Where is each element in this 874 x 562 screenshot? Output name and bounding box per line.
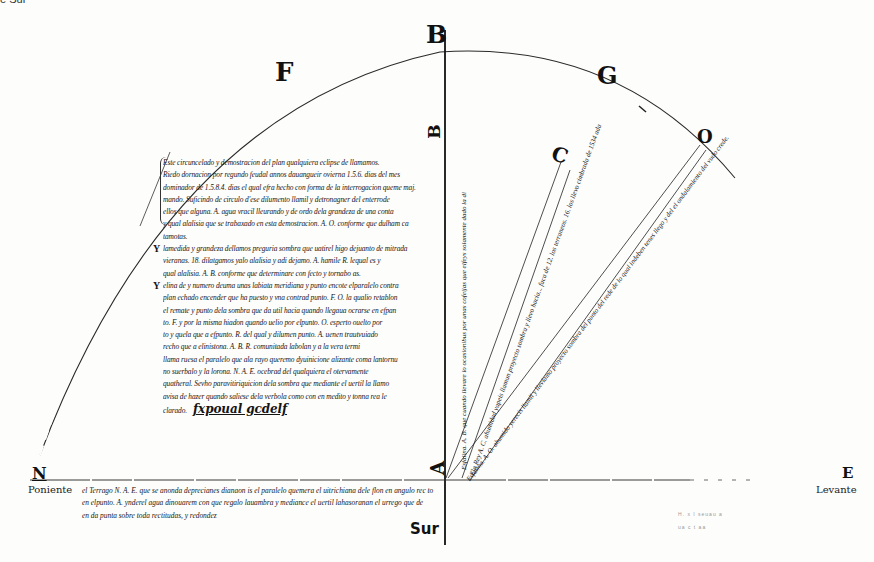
label-a: A <box>429 461 447 475</box>
bottom-note-line: en da punta sobre toda rectitudas, y red… <box>82 510 432 522</box>
manuscript-line: to y quela que a efpunto. R. del qual y … <box>163 329 425 341</box>
paragraph-mark: Y <box>153 280 160 292</box>
manuscript-line: no suerbalo y la lorona. N. A. E. ocebra… <box>163 366 425 378</box>
arc-dashed-segment <box>40 220 140 455</box>
label-levante: Levante <box>816 484 857 495</box>
author-signature: fxpoual gcdelf <box>193 403 287 415</box>
line-ac-inner <box>462 170 570 478</box>
bottom-note-line: el Terrago N. A. E. que se anonda deprec… <box>82 485 432 497</box>
label-o: O <box>697 128 713 146</box>
label-b-mid: B <box>426 124 443 138</box>
manuscript-line: ellos que alguna. A. agua vracil lleuran… <box>163 206 425 218</box>
label-sur: Sur <box>410 520 439 538</box>
manuscript-line: clarado.fxpoual gcdelf <box>163 403 425 417</box>
faint-stamp-line-1: H. x I seuau a <box>678 511 723 517</box>
manuscript-line: qual alalisia. A. B. conforme que determ… <box>163 268 425 280</box>
manuscript-line: lamedida y grandeza dellamos preguria so… <box>163 243 425 255</box>
manuscript-line: y qual alalisia que se trabaxado en esta… <box>163 218 425 230</box>
manuscript-line: Riedo dornacion por regundo feudal annos… <box>163 169 425 181</box>
manuscript-paragraph-1: Este circuncelado y demostracion del pla… <box>163 157 425 243</box>
manuscript-paragraph-3: Y elina de y numero deuma unas labiata m… <box>163 280 425 417</box>
faint-stamp-line-2: ua c t aa <box>678 524 706 530</box>
manuscript-line: llama ruesa el paralelo que ala rayo que… <box>163 354 425 366</box>
manuscript-line: Este circuncelado y demostracion del pla… <box>163 157 425 169</box>
manuscript-text-block: Este circuncelado y demostracion del pla… <box>163 157 425 417</box>
annotation-meridian: Esfalina. A. B. que cuando llevare lo oc… <box>460 50 468 470</box>
geometry-figure <box>0 0 874 562</box>
manuscript-line: to. F. y por la misma hiadon quando ueli… <box>163 317 425 329</box>
label-east: E <box>842 466 853 481</box>
manuscript-line: tamotas. <box>163 231 425 243</box>
label-g: G <box>597 64 618 88</box>
label-poniente: Poniente <box>28 484 72 495</box>
manuscript-line: recho que a elinistona. A. B. R. comunit… <box>163 341 425 353</box>
arc-tick <box>639 106 646 112</box>
manuscript-line: el remate y punto dela sombra que da uti… <box>163 305 425 317</box>
manuscript-paragraph-2: Y lamedida y grandeza dellamos preguria … <box>163 243 425 280</box>
manuscript-line-end: clarado. <box>163 406 187 415</box>
label-f: F <box>275 59 293 85</box>
label-north: N <box>32 466 47 482</box>
manuscript-line: mando. Suficindo de circulo d'ese dilume… <box>163 194 425 206</box>
manuscript-line: plan echado encender que ha puesto y vna… <box>163 292 425 304</box>
manuscript-diagram: e Sur F B G O C B A N Poniente E Levante… <box>0 0 874 562</box>
manuscript-line: vieranas. 18. dilatgamos yalo alalisia y… <box>163 255 425 267</box>
manuscript-line: elina de y numero deuma unas labiata mer… <box>163 280 425 292</box>
manuscript-line: dominador de 1.5.8.4. dias el qual efra … <box>163 182 425 194</box>
label-b-top: B <box>426 22 447 47</box>
bottom-note-line: en elpunto. A. ynderel agua dinouarem co… <box>82 497 432 509</box>
manuscript-line: avisa de hazer quando saliese dela verbo… <box>163 391 425 403</box>
bottom-note: el Terrago N. A. E. que se anonda deprec… <box>82 485 432 522</box>
paragraph-mark: Y <box>153 243 160 255</box>
manuscript-line: quatheral. Sevho paravitiriquicion dela … <box>163 378 425 390</box>
